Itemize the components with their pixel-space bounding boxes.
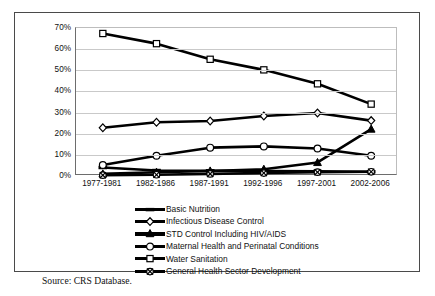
- legend-item[interactable]: Infectious Disease Control: [15, 215, 421, 227]
- x-axis-tick-label: 1997-2001: [297, 179, 336, 188]
- legend-label: Infectious Disease Control: [166, 217, 264, 225]
- y-axis-tick-label: 70%: [31, 23, 71, 32]
- x-axis-tick-label: 2002-2006: [351, 179, 390, 188]
- legend-marker-icon: [135, 253, 165, 264]
- data-point-marker: [367, 125, 375, 132]
- x-axis-tick-label: 1992-1996: [243, 179, 282, 188]
- line-chart: 0%10%20%30%40%50%60%70% 1977-19811982-19…: [31, 19, 405, 199]
- gridline: [76, 134, 396, 135]
- y-axis-tick-label: 10%: [31, 149, 71, 158]
- legend-label: Water Sanitation: [166, 255, 228, 263]
- legend-label: General Health Sector Development: [166, 267, 301, 275]
- gridline: [76, 155, 396, 156]
- y-axis-tick-label: 50%: [31, 65, 71, 74]
- legend-marker-icon: [135, 216, 165, 227]
- data-point-marker: [100, 30, 106, 36]
- legend-item[interactable]: Basic Nutrition: [15, 203, 421, 215]
- data-point-marker: [207, 56, 213, 62]
- data-point-marker: [368, 117, 375, 125]
- series-lines: [76, 28, 398, 176]
- source-caption: Source: CRS Database.: [42, 275, 132, 286]
- plot-area: [75, 27, 397, 175]
- legend-item[interactable]: Maternal Health and Perinatal Conditions: [15, 240, 421, 252]
- y-axis-tick-label: 40%: [31, 86, 71, 95]
- data-point-marker: [207, 117, 214, 125]
- series-line: [103, 113, 371, 128]
- y-axis-tick-label: 20%: [31, 128, 71, 137]
- chart-screenshot: 0%10%20%30%40%50%60%70% 1977-19811982-19…: [0, 0, 435, 296]
- data-point-marker: [153, 41, 159, 47]
- legend-label: Maternal Health and Perinatal Conditions: [166, 242, 319, 250]
- series-line: [103, 33, 371, 104]
- data-point-marker: [314, 81, 320, 87]
- data-point-marker: [207, 144, 214, 151]
- chart-frame: 0%10%20%30%40%50%60%70% 1977-19811982-19…: [14, 12, 420, 272]
- data-point-marker: [368, 101, 374, 107]
- data-point-marker: [153, 171, 160, 178]
- y-axis-labels: 0%10%20%30%40%50%60%70%: [31, 27, 71, 175]
- data-point-marker: [260, 143, 267, 150]
- data-point-marker: [314, 145, 321, 152]
- data-point-marker: [99, 124, 106, 132]
- legend-label: STD Control Including HIV/AIDS: [166, 230, 286, 238]
- data-point-marker: [99, 162, 106, 169]
- data-point-marker: [207, 171, 214, 178]
- gridline: [76, 91, 396, 92]
- data-point-marker: [368, 169, 375, 176]
- legend-marker-icon: [135, 266, 165, 277]
- legend-marker-icon: [135, 228, 165, 239]
- data-point-marker: [153, 118, 160, 126]
- x-axis-tick-label: 1987-1991: [190, 179, 229, 188]
- y-axis-tick-label: 60%: [31, 44, 71, 53]
- gridline: [76, 49, 396, 50]
- legend-item[interactable]: STD Control Including HIV/AIDS: [15, 228, 421, 240]
- data-point-marker: [100, 172, 107, 179]
- x-axis-tick-label: 1982-1986: [136, 179, 175, 188]
- chart-legend: Basic NutritionInfectious Disease Contro…: [15, 203, 421, 277]
- data-point-marker: [261, 170, 268, 177]
- legend-marker-icon: [135, 241, 165, 252]
- gridline: [76, 113, 396, 114]
- gridline: [76, 70, 396, 71]
- legend-item[interactable]: Water Sanitation: [15, 253, 421, 265]
- data-point-marker: [314, 169, 321, 176]
- y-axis-tick-label: 0%: [31, 171, 71, 180]
- legend-label: Basic Nutrition: [166, 205, 220, 213]
- legend-marker-icon: [135, 204, 165, 215]
- y-axis-tick-label: 30%: [31, 107, 71, 116]
- x-axis-tick-label: 1977-1981: [82, 179, 121, 188]
- x-axis-labels: 1977-19811982-19861987-19911992-19961997…: [75, 179, 397, 193]
